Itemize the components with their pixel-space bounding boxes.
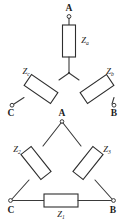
delta-wire-z2-c [12,180,29,199]
delta-impedance-label-z2: Z2 [13,144,21,155]
wye-impedance-zb-sub: b [111,71,114,77]
delta-impedance-z3-sub: 3 [107,149,111,155]
wye-impedance-label-zb: Zb [106,66,114,77]
wye-impedance-label-zc: Zc [22,66,30,77]
delta-resistor-z1 [44,194,78,207]
delta-resistor-z3 [73,146,103,179]
wye-lead-center-c [59,73,69,80]
delta-terminal-label-a: A [59,108,66,118]
wye-terminal-label-c: C [8,108,15,118]
wye-terminal-label-b: B [111,108,118,118]
delta-impedance-label-z3: Z3 [103,144,111,155]
delta-impedance-label-z1: Z1 [57,209,65,220]
wye-resistor-zb [80,75,114,104]
delta-impedance-z2-sub: 2 [18,149,21,155]
wye-impedance-zc-sub: c [27,71,30,77]
delta-terminal-node-c [9,199,13,203]
wye-resistor-zc [24,75,58,104]
delta-impedance-z1-sub: 1 [62,214,65,220]
circuit-figure: A Za [0,0,126,222]
wye-lead-c [14,98,24,105]
delta-resistor-z2 [21,146,51,179]
wye-resistor-za [63,25,76,57]
delta-triangle-network: A Z2 Z3 [8,108,117,220]
delta-terminal-node-b [112,199,116,203]
wye-impedance-label-za: Za [81,35,89,46]
wye-terminal-node-a [67,15,71,19]
delta-wire-a-z3 [63,123,81,146]
delta-wire-z3-b [95,180,112,199]
delta-terminal-label-c: C [8,205,15,215]
delta-terminal-label-b: B [110,205,117,215]
wye-terminal-node-c [10,103,14,107]
wye-terminal-label-a: A [66,3,73,13]
wye-lead-center-b [69,73,79,80]
wye-impedance-za-sub: a [86,40,89,46]
wye-terminal-node-b [112,103,116,107]
wye-star-network: A Za [8,3,118,118]
circuit-diagram-svg: A Za [0,0,126,222]
delta-wire-a-z2 [43,123,61,146]
